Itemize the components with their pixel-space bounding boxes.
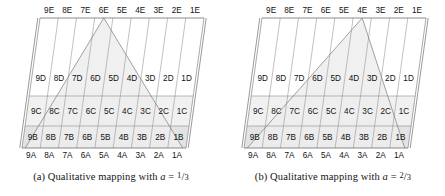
grid-cell-label: 8D	[276, 74, 287, 83]
grid-cell-label: 6C	[86, 107, 97, 116]
grid-cell-label: 9C	[31, 107, 42, 116]
grid-cell-label: 5C	[104, 107, 115, 116]
axis-cell-label: 4A	[117, 151, 128, 160]
column-divider	[408, 18, 426, 148]
panel-a-diagram: 9E8E7E6E5E4E3E2E1E9D8D7D6D5D4D3D2D1D9C8C…	[0, 0, 222, 168]
axis-cell-label: 4E	[357, 6, 368, 15]
panel-a-caption-numerator: 1	[177, 170, 181, 180]
axis-cell-label: 6A	[303, 151, 314, 160]
grid-cell-label: 1D	[181, 74, 192, 83]
grid-cell-label: 7C	[67, 107, 78, 116]
grid-cell-label: 7C	[289, 107, 300, 116]
panel-a-caption: (a) Qualitative mapping with a = 1/3	[0, 170, 222, 182]
axis-cell-label: 1E	[190, 6, 201, 15]
grid-cell-label: 5B	[323, 133, 334, 142]
axis-cell-label: 2A	[154, 151, 165, 160]
axis-cell-label: 9A	[26, 151, 37, 160]
axis-cell-label: 3A	[135, 151, 146, 160]
panel-a-caption-equals: =	[166, 171, 177, 182]
axis-cell-label: 5A	[99, 151, 110, 160]
grid-cell-label: 3C	[140, 107, 151, 116]
axis-cell-label: 5E	[339, 6, 350, 15]
grid-cell-label: 1B	[395, 133, 406, 142]
axis-cell-label: 8E	[284, 6, 295, 15]
axis-cell-label: 6E	[99, 6, 110, 15]
grid-cell-label: 9D	[36, 74, 47, 83]
panel-a-caption-fraction: 1/3	[177, 170, 189, 182]
grid-cell-label: 1B	[173, 133, 184, 142]
grid-cell-label: 1D	[403, 74, 414, 83]
grid-cell-label: 2C	[159, 107, 170, 116]
axis-cell-label: 7A	[63, 151, 74, 160]
grid-cell-label: 6B	[82, 133, 93, 142]
grid-cell-label: 6B	[304, 133, 315, 142]
grid-cell-label: 1C	[399, 107, 410, 116]
grid-cell-label: 8C	[49, 107, 60, 116]
outer-rail	[410, 18, 428, 148]
axis-cell-label: 9E	[44, 6, 55, 15]
grid-cell-label: 3D	[367, 74, 378, 83]
panel-b-caption-equals: =	[388, 171, 399, 182]
grid-cell-label: 2D	[385, 74, 396, 83]
grid-cell-label: 6D	[312, 74, 323, 83]
grid-cell-label: 2C	[381, 107, 392, 116]
grid-cell-label: 3B	[137, 133, 148, 142]
axis-cell-label: 4A	[339, 151, 350, 160]
grid-cell-label: 8D	[54, 74, 65, 83]
grid-cell-label: 6C	[308, 107, 319, 116]
axis-cell-label: 2A	[376, 151, 387, 160]
axis-cell-label: 6A	[81, 151, 92, 160]
grid-cell-label: 5D	[330, 74, 341, 83]
axis-cell-label: 3E	[153, 6, 164, 15]
axis-cell-label: 9A	[248, 151, 259, 160]
grid-cell-label: 4D	[349, 74, 360, 83]
axis-cell-label: 3A	[357, 151, 368, 160]
panel-b: 9E8E7E6E5E4E3E2E1E9D8D7D6D5D4D3D2D1D9C8C…	[222, 0, 444, 196]
grid-cell-label: 9B	[250, 133, 261, 142]
panel-b-caption-fraction: 2/3	[399, 170, 411, 182]
axis-cell-label: 6E	[321, 6, 332, 15]
grid-cell-label: 4B	[119, 133, 130, 142]
axis-cell-label: 5E	[117, 6, 128, 15]
panel-b-caption: (b) Qualitative mapping with a = 2/3	[222, 170, 444, 182]
panel-b-caption-numerator: 2	[399, 170, 403, 180]
grid-cell-label: 4C	[122, 107, 133, 116]
grid-cell-label: 3C	[362, 107, 373, 116]
grid-cell-label: 1C	[177, 107, 188, 116]
grid-cell-label: 5D	[108, 74, 119, 83]
panel-a: 9E8E7E6E5E4E3E2E1E9D8D7D6D5D4D3D2D1D9C8C…	[0, 0, 222, 196]
grid-cell-label: 4D	[127, 74, 138, 83]
axis-cell-label: 9E	[266, 6, 277, 15]
grid-cell-label: 8B	[46, 133, 57, 142]
grid-cell-label: 7B	[64, 133, 75, 142]
grid-cell-label: 9B	[28, 133, 39, 142]
grid-cell-label: 2D	[163, 74, 174, 83]
panel-a-caption-prefix: (a) Qualitative mapping with	[33, 171, 160, 182]
axis-cell-label: 1A	[172, 151, 183, 160]
axis-cell-label: 7E	[303, 6, 314, 15]
outer-rail	[188, 18, 206, 148]
grid-cell-label: 9D	[258, 74, 269, 83]
axis-cell-label: 2E	[394, 6, 405, 15]
axis-cell-label: 8E	[62, 6, 73, 15]
axis-cell-label: 2E	[172, 6, 183, 15]
grid-cell-label: 3B	[359, 133, 370, 142]
grid-cell-label: 2B	[155, 133, 166, 142]
grid-cell-label: 4C	[344, 107, 355, 116]
axis-cell-label: 4E	[135, 6, 146, 15]
grid-cell-label: 7D	[294, 74, 305, 83]
grid-cell-label: 8C	[271, 107, 282, 116]
panel-b-diagram: 9E8E7E6E5E4E3E2E1E9D8D7D6D5D4D3D2D1D9C8C…	[222, 0, 444, 168]
axis-cell-label: 1A	[394, 151, 405, 160]
grid-cell-label: 5C	[326, 107, 337, 116]
grid-cell-label: 9C	[253, 107, 264, 116]
axis-cell-label: 5A	[321, 151, 332, 160]
axis-cell-label: 7E	[81, 6, 92, 15]
panel-a-caption-denominator: 3	[185, 172, 189, 182]
grid-cell-label: 6D	[90, 74, 101, 83]
grid-cell-label: 8B	[268, 133, 279, 142]
grid-cell-label: 7B	[286, 133, 297, 142]
figure-container: 9E8E7E6E5E4E3E2E1E9D8D7D6D5D4D3D2D1D9C8C…	[0, 0, 445, 196]
grid-cell-label: 5B	[101, 133, 112, 142]
panel-b-caption-denominator: 3	[407, 172, 411, 182]
